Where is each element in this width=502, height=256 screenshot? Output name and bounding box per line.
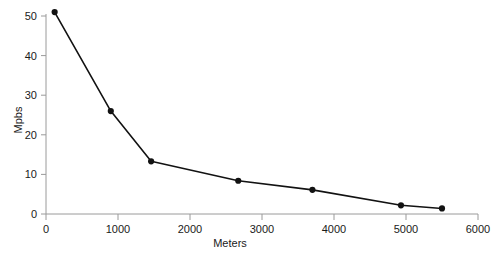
x-tick-label: 1000 (106, 223, 130, 235)
data-point-marker (52, 9, 58, 15)
data-point-marker (235, 178, 241, 184)
y-tick-label: 30 (25, 89, 37, 101)
line-chart: 01020304050 0100020003000400050006000 Me… (0, 0, 502, 256)
chart-container: 01020304050 0100020003000400050006000 Me… (0, 0, 502, 256)
data-point-marker (148, 158, 154, 164)
x-tick-label: 5000 (394, 223, 418, 235)
y-axis-title: Mpbs (12, 106, 24, 133)
y-tick-label: 20 (25, 129, 37, 141)
x-axis: 0100020003000400050006000 (43, 214, 490, 235)
x-tick-label: 6000 (466, 223, 490, 235)
data-point-marker (439, 205, 445, 211)
data-series (52, 9, 446, 212)
y-axis: 01020304050 (25, 10, 46, 220)
x-tick-label: 2000 (178, 223, 202, 235)
y-tick-label: 0 (31, 208, 37, 220)
data-point-marker (398, 202, 404, 208)
x-tick-label: 3000 (250, 223, 274, 235)
y-tick-label: 40 (25, 50, 37, 62)
data-point-marker (309, 187, 315, 193)
y-tick-label: 50 (25, 10, 37, 22)
x-axis-title: Meters (213, 237, 247, 249)
data-point-marker (108, 108, 114, 114)
x-tick-label: 0 (43, 223, 49, 235)
x-tick-label: 4000 (322, 223, 346, 235)
y-tick-label: 10 (25, 168, 37, 180)
